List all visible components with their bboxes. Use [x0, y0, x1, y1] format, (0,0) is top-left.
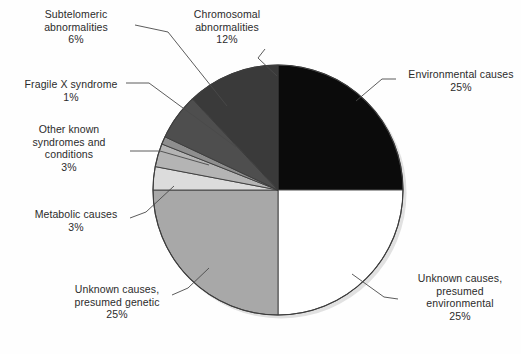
label-environmental-line1: Environmental causes: [402, 68, 520, 81]
label-unknown-genetic-line1: Unknown causes,: [40, 283, 194, 296]
label-subtelomeric-line2: abnormalities: [18, 21, 134, 34]
label-chromosomal-line1: Chromosomal: [168, 8, 286, 21]
label-subtelomeric-line1: Subtelomeric: [18, 8, 134, 21]
label-chromosomal-abnormalities: Chromosomal abnormalities 12%: [168, 8, 286, 46]
pie-slices-group: [153, 65, 403, 315]
label-unknown-genetic-value: 25%: [40, 308, 194, 321]
label-chromosomal-value: 12%: [168, 33, 286, 46]
label-fragile-x-value: 1%: [4, 91, 138, 104]
label-other-known-line3: conditions: [2, 148, 136, 161]
label-unknown-presumed-environmental: Unknown causes, presumed environmental 2…: [404, 272, 516, 322]
label-unknown-genetic-line2: presumed genetic: [40, 296, 194, 309]
label-metabolic-value: 3%: [18, 221, 134, 234]
label-unknown-environmental-line2: presumed: [404, 285, 516, 298]
pie-slice-environmental-causes[interactable]: [278, 65, 403, 190]
pie-slice-unknown-presumed-environmental[interactable]: [278, 190, 403, 315]
label-other-known-line2: syndromes and: [2, 136, 136, 149]
label-unknown-environmental-line1: Unknown causes,: [404, 272, 516, 285]
label-metabolic-causes: Metabolic causes 3%: [18, 208, 134, 233]
label-subtelomeric-abnormalities: Subtelomeric abnormalities 6%: [18, 8, 134, 46]
label-chromosomal-line2: abnormalities: [168, 21, 286, 34]
label-unknown-presumed-genetic: Unknown causes, presumed genetic 25%: [40, 283, 194, 321]
pie-chart-figure: Subtelomeric abnormalities 6% Chromosoma…: [0, 0, 521, 354]
label-metabolic-line1: Metabolic causes: [18, 208, 134, 221]
label-subtelomeric-value: 6%: [18, 33, 134, 46]
label-other-known-syndromes: Other known syndromes and conditions 3%: [2, 123, 136, 173]
label-other-known-value: 3%: [2, 161, 136, 174]
label-fragile-x-syndrome: Fragile X syndrome 1%: [4, 78, 138, 103]
label-unknown-environmental-line3: environmental: [404, 297, 516, 310]
label-other-known-line1: Other known: [2, 123, 136, 136]
label-fragile-x-line1: Fragile X syndrome: [4, 78, 138, 91]
label-environmental-causes: Environmental causes 25%: [402, 68, 520, 93]
label-unknown-environmental-value: 25%: [404, 310, 516, 323]
label-environmental-value: 25%: [402, 81, 520, 94]
